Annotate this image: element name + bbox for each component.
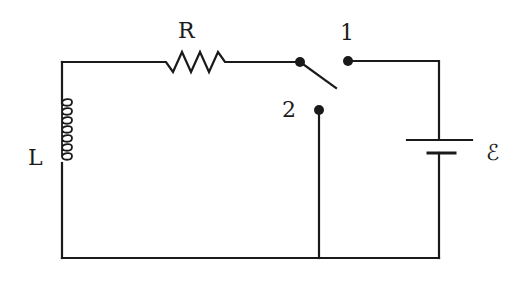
resistor bbox=[158, 52, 232, 72]
resistor-label: R bbox=[178, 18, 196, 43]
switch-blade bbox=[300, 62, 336, 88]
top-right-wire bbox=[348, 61, 439, 140]
inductor bbox=[62, 62, 72, 258]
switch-position-1-label: 1 bbox=[340, 20, 354, 45]
emf-label: ℰ bbox=[486, 140, 499, 165]
battery bbox=[407, 140, 472, 258]
circuit-diagram: R 1 2 L ℰ bbox=[0, 0, 522, 286]
inductor-label: L bbox=[28, 145, 43, 170]
switch-position-2-label: 2 bbox=[282, 97, 296, 122]
switch bbox=[295, 56, 353, 115]
